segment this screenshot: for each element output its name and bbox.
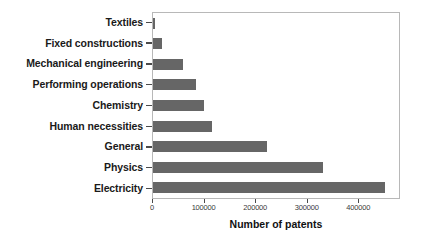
bar: [153, 141, 267, 152]
plot-area: [152, 12, 400, 199]
bar-row: [153, 157, 399, 178]
bar-series: [153, 13, 399, 198]
y-axis-label: Textiles: [105, 17, 148, 28]
bar: [153, 18, 155, 29]
x-axis-tick-label: 200000: [243, 203, 267, 212]
bar-row: [153, 136, 399, 157]
x-axis-tick-label: 0: [150, 203, 154, 212]
bar-chart: Textiles Fixed constructions Mechanical …: [0, 0, 421, 242]
x-axis-tick-label: 100000: [192, 203, 216, 212]
y-axis-label: Human necessities: [50, 121, 148, 132]
y-axis-label: Physics: [104, 162, 148, 173]
bar: [153, 162, 323, 173]
y-axis-labels: Textiles Fixed constructions Mechanical …: [0, 12, 148, 199]
bar: [153, 100, 204, 111]
bar-row: [153, 95, 399, 116]
bar: [153, 121, 212, 132]
bar-row: [153, 54, 399, 75]
bar-row: [153, 178, 399, 199]
bar: [153, 79, 196, 90]
bar-row: [153, 116, 399, 137]
bar: [153, 182, 385, 193]
y-axis-label: Chemistry: [93, 100, 148, 111]
bar: [153, 59, 183, 70]
bar-row: [153, 75, 399, 96]
y-axis-label: Electricity: [94, 183, 148, 194]
y-axis-label: Fixed constructions: [45, 38, 148, 49]
bar-row: [153, 13, 399, 34]
bar-row: [153, 34, 399, 55]
y-axis-label: Performing operations: [33, 79, 149, 90]
x-axis-tick-labels: 0100000200000300000400000: [152, 203, 400, 215]
x-axis-tick-label: 300000: [295, 203, 319, 212]
x-axis-title: Number of patents: [152, 218, 400, 230]
y-axis-label: General: [105, 141, 148, 152]
y-axis-label: Mechanical engineering: [26, 58, 148, 69]
bar: [153, 38, 162, 49]
x-axis-tick-label: 400000: [346, 203, 370, 212]
